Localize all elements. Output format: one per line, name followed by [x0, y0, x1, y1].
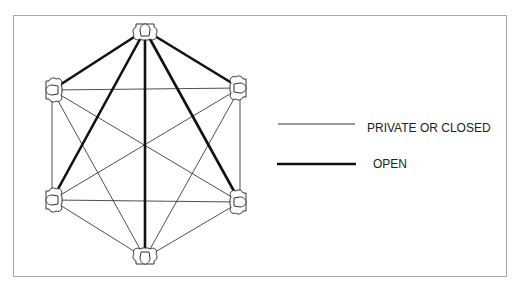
person-icon-lower-left — [46, 188, 62, 212]
person-icon-bottom — [133, 248, 157, 264]
person-icon-upper-right — [230, 76, 246, 100]
edge-lower-right-bottom — [145, 202, 240, 258]
communication-network-diagram — [0, 0, 517, 291]
edge-top-upper-left — [52, 30, 145, 90]
edge-top-upper-right — [145, 30, 240, 88]
legend-open-label: OPEN — [373, 157, 407, 171]
legend-private-label: PRIVATE OR CLOSED — [367, 121, 491, 135]
edge-top-lower-right — [145, 30, 240, 202]
edge-lower-left-bottom — [52, 200, 145, 258]
person-icon-lower-right — [230, 190, 246, 214]
open-edges — [52, 30, 240, 258]
person-icon-upper-left — [46, 78, 62, 102]
person-icon-top — [133, 24, 157, 40]
